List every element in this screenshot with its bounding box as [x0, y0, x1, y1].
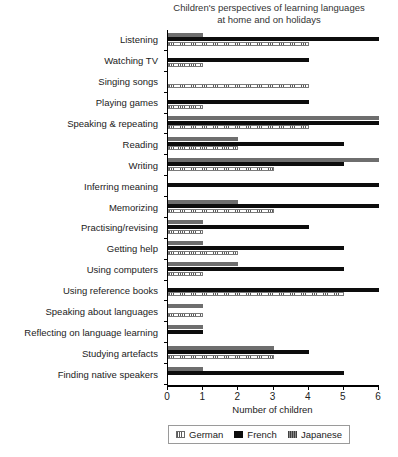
japanese-swatch	[288, 431, 297, 438]
bar-japanese	[168, 241, 203, 245]
bar-german	[168, 230, 203, 234]
chart-title: Children's perspectives of learning lang…	[140, 2, 398, 25]
bar-german	[168, 63, 203, 67]
bar-german	[168, 272, 203, 276]
bar-french	[168, 225, 309, 229]
category-label: Inferring meaning	[84, 181, 158, 192]
category-label: Writing	[129, 160, 158, 171]
bar-german	[168, 292, 344, 296]
category-label: Reading	[123, 139, 158, 150]
x-tick-mark	[237, 385, 238, 390]
bar-french	[168, 246, 344, 250]
bar-japanese	[168, 304, 203, 308]
x-tick-mark	[308, 385, 309, 390]
bar-group	[168, 114, 379, 135]
bar-row	[168, 364, 379, 385]
x-tick-label: 4	[298, 391, 318, 402]
x-tick-label: 2	[227, 391, 247, 402]
bar-group	[168, 72, 379, 93]
x-tick-mark	[378, 385, 379, 390]
bar-german	[168, 105, 203, 109]
legend-item: French	[234, 429, 277, 440]
bar-chart: Children's perspectives of learning lang…	[0, 0, 398, 457]
category-label: Studying artefacts	[82, 348, 158, 359]
category-label: Speaking & repeating	[67, 118, 158, 129]
legend-item: Japanese	[288, 429, 342, 440]
bar-japanese	[168, 262, 238, 266]
category-label: Speaking about languages	[45, 306, 158, 317]
category-label: Using reference books	[63, 285, 158, 296]
legend-item: German	[176, 429, 223, 440]
category-axis-labels: ListeningWatching TVSinging songsPlaying…	[0, 30, 163, 385]
x-tick-mark	[273, 385, 274, 390]
bar-row	[168, 176, 379, 197]
x-tick-label: 0	[157, 391, 177, 402]
bar-row	[168, 197, 379, 218]
chart-legend: GermanFrenchJapanese	[168, 425, 350, 444]
bar-french	[168, 121, 379, 125]
bar-french	[168, 371, 344, 375]
bar-french	[168, 204, 379, 208]
bar-group	[168, 30, 379, 51]
bar-row	[168, 155, 379, 176]
bar-row	[168, 260, 379, 281]
bar-german	[168, 209, 274, 213]
bar-french	[168, 37, 379, 41]
bar-french	[168, 288, 379, 292]
legend-label: French	[247, 429, 277, 440]
german-swatch	[176, 431, 185, 438]
bar-group	[168, 134, 379, 155]
bar-row	[168, 134, 379, 155]
bar-group	[168, 197, 379, 218]
bar-group	[168, 218, 379, 239]
bar-group	[168, 343, 379, 364]
bar-german	[168, 355, 274, 359]
x-tick-label: 1	[192, 391, 212, 402]
bar-french	[168, 100, 309, 104]
bar-german	[168, 167, 274, 171]
category-label: Reflecting on language learning	[24, 327, 158, 338]
bar-japanese	[168, 346, 274, 350]
bar-group	[168, 155, 379, 176]
bar-japanese	[168, 116, 379, 120]
x-axis-title: Number of children	[167, 404, 378, 415]
bar-row	[168, 218, 379, 239]
bar-japanese	[168, 220, 203, 224]
bar-row	[168, 93, 379, 114]
x-tick-mark	[202, 385, 203, 390]
bar-german	[168, 251, 238, 255]
bar-group	[168, 51, 379, 72]
legend-label: German	[189, 429, 223, 440]
bar-row	[168, 281, 379, 302]
bar-french	[168, 162, 344, 166]
bar-row	[168, 72, 379, 93]
category-label: Practising/revising	[81, 222, 158, 233]
category-label: Watching TV	[104, 55, 158, 66]
bar-group	[168, 364, 379, 385]
bar-german	[168, 146, 238, 150]
bar-japanese	[168, 158, 379, 162]
bar-row	[168, 301, 379, 322]
bar-group	[168, 301, 379, 322]
category-label: Getting help	[107, 243, 158, 254]
plot-area	[167, 30, 379, 385]
bar-french	[168, 267, 344, 271]
bar-group	[168, 93, 379, 114]
category-label: Memorizing	[109, 202, 158, 213]
bar-row	[168, 30, 379, 51]
category-label: Using computers	[87, 264, 158, 275]
bar-group	[168, 239, 379, 260]
bar-group	[168, 322, 379, 343]
bar-french	[168, 183, 379, 187]
category-label: Listening	[120, 34, 158, 45]
category-label: Playing games	[96, 97, 158, 108]
bar-group	[168, 260, 379, 281]
x-tick-label: 5	[333, 391, 353, 402]
bar-japanese	[168, 367, 203, 371]
bar-french	[168, 330, 203, 334]
bar-german	[168, 313, 203, 317]
bar-french	[168, 142, 344, 146]
x-tick-label: 3	[263, 391, 283, 402]
bar-rows	[168, 30, 379, 385]
chart-title-line-1: Children's perspectives of learning lang…	[140, 2, 398, 14]
